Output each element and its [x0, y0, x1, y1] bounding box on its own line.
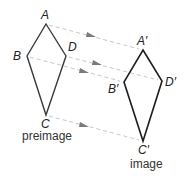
image-kite — [124, 50, 162, 141]
vertex-label-a-prime: A′ — [136, 34, 148, 48]
vertex-label-b: B — [13, 49, 21, 63]
arrowhead-b-icon — [79, 68, 89, 73]
arrowhead-a-icon — [86, 32, 96, 37]
arrowhead-d-icon — [92, 60, 102, 65]
vertex-label-d: D — [68, 40, 77, 54]
vertex-label-b-prime: B′ — [108, 82, 119, 96]
arrowhead-c-icon — [79, 122, 89, 127]
guide-line-d — [69, 57, 158, 80]
preimage-kite — [27, 24, 66, 115]
guide-line-b — [30, 57, 120, 81]
vertex-label-d-prime: D′ — [165, 75, 177, 89]
vertex-label-a: A — [40, 8, 49, 22]
translation-diagram: A B D C A′ B′ D′ C′ preimage image — [0, 0, 188, 176]
preimage-caption: preimage — [22, 129, 72, 143]
vertex-label-c-prime: C′ — [138, 143, 150, 157]
image-caption: image — [130, 157, 163, 171]
